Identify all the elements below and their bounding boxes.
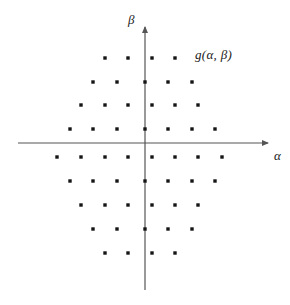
lattice-point — [143, 80, 146, 83]
lattice-point — [166, 127, 169, 130]
lattice-point — [103, 103, 106, 106]
lattice-point — [79, 203, 82, 206]
lattice-point — [68, 127, 71, 130]
lattice-point — [173, 56, 176, 59]
scatter-plot-figure: β α g(α, β) — [0, 0, 290, 305]
function-annotation-label: g(α, β) — [195, 48, 232, 61]
lattice-point — [143, 127, 146, 130]
lattice-point — [68, 179, 71, 182]
lattice-point — [166, 80, 169, 83]
lattice-point — [126, 251, 129, 254]
lattice-point — [79, 155, 82, 158]
lattice-point — [166, 179, 169, 182]
lattice-point — [126, 56, 129, 59]
lattice-point — [115, 227, 118, 230]
lattice-point — [91, 227, 94, 230]
lattice-point — [150, 251, 153, 254]
lattice-point — [173, 251, 176, 254]
lattice-point — [196, 155, 199, 158]
lattice-point — [115, 80, 118, 83]
lattice-point — [143, 227, 146, 230]
lattice-point — [115, 127, 118, 130]
lattice-point — [115, 179, 118, 182]
lattice-point — [150, 103, 153, 106]
lattice-point — [190, 227, 193, 230]
lattice-point — [103, 203, 106, 206]
lattice-point — [196, 203, 199, 206]
lattice-point — [91, 127, 94, 130]
lattice-point — [150, 203, 153, 206]
lattice-point — [213, 179, 216, 182]
lattice-point — [173, 203, 176, 206]
lattice-point — [190, 179, 193, 182]
lattice-point — [173, 103, 176, 106]
lattice-point — [143, 179, 146, 182]
alpha-axis-label: α — [274, 149, 281, 162]
lattice-point — [213, 127, 216, 130]
lattice-point — [126, 103, 129, 106]
lattice-point — [55, 155, 58, 158]
lattice-point — [190, 80, 193, 83]
lattice-point — [91, 179, 94, 182]
lattice-point — [173, 155, 176, 158]
lattice-point — [103, 56, 106, 59]
lattice-point — [91, 80, 94, 83]
lattice-point — [196, 103, 199, 106]
lattice-point — [166, 227, 169, 230]
lattice-point — [103, 155, 106, 158]
lattice-point — [126, 203, 129, 206]
lattice-point — [79, 103, 82, 106]
lattice-point — [220, 155, 223, 158]
lattice-point — [190, 127, 193, 130]
beta-axis-label: β — [128, 13, 134, 26]
lattice-point — [103, 251, 106, 254]
lattice-point — [150, 56, 153, 59]
lattice-points-group — [55, 56, 223, 254]
lattice-point — [150, 155, 153, 158]
lattice-plot-canvas — [0, 0, 290, 305]
lattice-point — [126, 155, 129, 158]
